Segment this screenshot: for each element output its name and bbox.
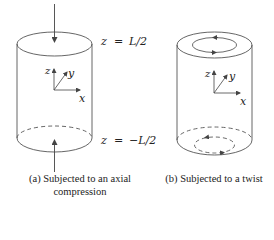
caption-a: (a) Subjected to an axial compression xyxy=(18,172,142,198)
cylinder-b-top-face xyxy=(177,32,252,58)
svg-text:z: z xyxy=(100,134,107,147)
twist-top-icon xyxy=(193,38,237,53)
cylinder-a-bottom-back-dashed xyxy=(17,126,92,138)
cylinder-b-bottom-back-dashed xyxy=(177,127,252,140)
caption-a-line1: (a) Subjected to an axial xyxy=(18,172,142,185)
axis-label-x: x xyxy=(79,92,86,105)
axis-label-y: y xyxy=(67,67,75,80)
axis-label-z: z xyxy=(44,65,51,76)
caption-a-line2: compression xyxy=(18,185,142,198)
y-axis-arrow-icon xyxy=(54,72,67,90)
cylinder-b xyxy=(177,32,252,155)
caption-b: (b) Subjected to a twist xyxy=(156,172,272,185)
axis-label-x: x xyxy=(240,95,247,108)
y-axis-arrow-icon xyxy=(214,75,227,93)
twist-bottom-icon xyxy=(195,137,235,153)
svg-text:z: z xyxy=(100,35,107,48)
axes-a xyxy=(54,69,80,90)
axis-label-z: z xyxy=(204,68,211,79)
caption-b-line1: (b) Subjected to a twist xyxy=(156,172,272,185)
top-boundary-label: z = L/2 xyxy=(100,35,147,48)
svg-text:−L/2: −L/2 xyxy=(129,134,156,147)
axis-label-y: y xyxy=(228,70,236,83)
axes-b xyxy=(214,71,240,93)
svg-text:L/2: L/2 xyxy=(128,35,147,48)
svg-text:=: = xyxy=(114,35,123,48)
svg-text:=: = xyxy=(114,134,123,147)
bottom-boundary-label: z = −L/2 xyxy=(100,134,156,147)
